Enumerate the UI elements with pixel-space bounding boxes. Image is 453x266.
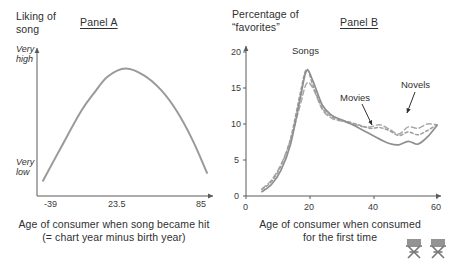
panel-b-ytick-3: 15: [231, 83, 241, 93]
panel-b-ytick-4: 20: [231, 47, 241, 57]
panel-b-xtick-1: 20: [304, 202, 314, 212]
panel-b-ytick-0: 0: [234, 191, 239, 201]
panel-b-xtick-3: 60: [431, 202, 441, 212]
panel-b-xtick-0: 0: [243, 202, 248, 212]
novels-pointer-arrow: [407, 92, 415, 113]
panel-b-ytick-1: 5: [234, 155, 239, 165]
panel-b-ytick-2: 10: [231, 119, 241, 129]
series-label-movies: Movies: [340, 92, 370, 103]
panel-b-xtick-2: 40: [368, 202, 378, 212]
director-chair-icon: [404, 236, 450, 260]
series-label-songs: Songs: [292, 45, 319, 56]
movies-pointer-arrow: [362, 104, 372, 125]
series-label-novels: Novels: [401, 79, 430, 90]
figure-canvas: Panel A Liking of song Very high Very lo…: [0, 0, 453, 266]
